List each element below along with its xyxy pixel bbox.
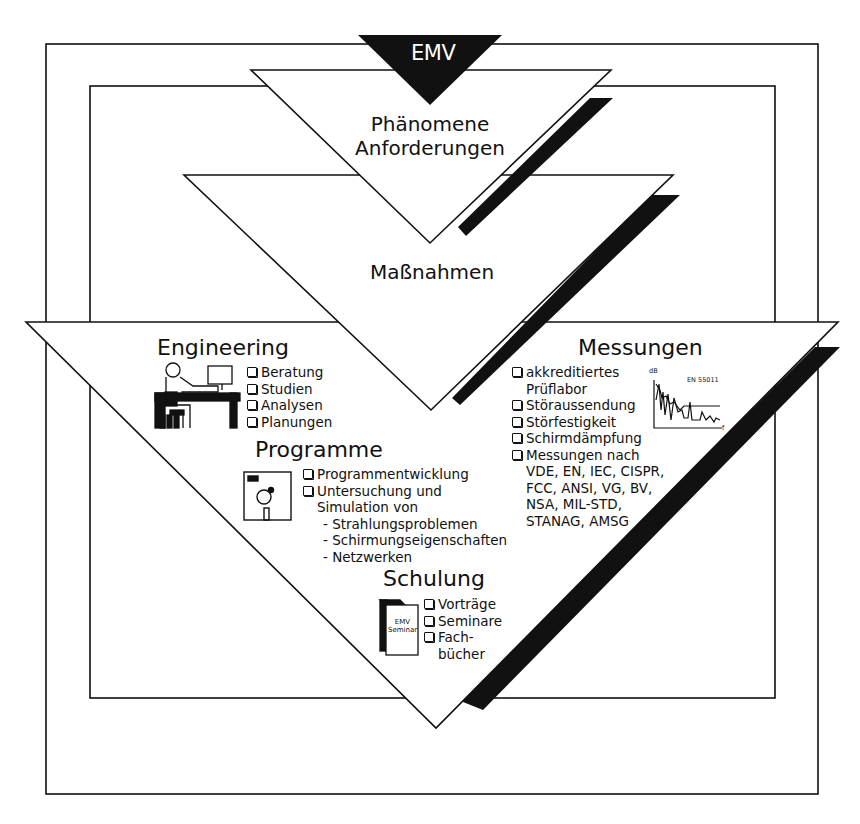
programme-item: Programmentwicklung: [302, 466, 507, 483]
programme-heading: Programme: [255, 437, 383, 462]
level-phaenomene: Phänomene Anforderungen: [347, 112, 513, 160]
programme-subitem: - Netzwerken: [302, 549, 507, 566]
engineering-item: Planungen: [246, 414, 332, 431]
messungen-item-continuation: NSA, MIL-STD,: [511, 496, 664, 513]
schulung-item: Seminare: [423, 613, 502, 630]
level-massnahmen: Maßnahmen: [357, 260, 507, 284]
messungen-item: akkreditiertes: [511, 364, 664, 381]
messungen-item: Messungen nach: [511, 447, 664, 464]
plot-x-label: f: [722, 424, 724, 432]
messungen-item: Störfestigkeit: [511, 414, 664, 431]
messungen-item-continuation: Prüflabor: [511, 381, 664, 398]
schulung-list: Vorträge Seminare Fach- bücher: [423, 596, 502, 662]
messungen-item-continuation: STANAG, AMSG: [511, 513, 664, 530]
programme-subitem: - Schirmungseigenschaften: [302, 532, 507, 549]
book-cover-line-1: EMV: [387, 618, 418, 626]
engineering-item: Beratung: [246, 364, 332, 381]
programme-list: Programmentwicklung Untersuchung und Sim…: [302, 466, 507, 565]
engineering-item: Studien: [246, 381, 332, 398]
engineering-item: Analysen: [246, 397, 332, 414]
schulung-item: Fach-: [423, 629, 502, 646]
schulung-item: Vorträge: [423, 596, 502, 613]
programme-item: Untersuchung und: [302, 483, 507, 500]
engineering-heading: Engineering: [157, 335, 289, 360]
schulung-item-continuation: bücher: [423, 646, 502, 663]
messungen-item-continuation: VDE, EN, IEC, CISPR,: [511, 463, 664, 480]
level-phaenomene-line-1: Phänomene: [347, 112, 513, 136]
level-phaenomene-line-2: Anforderungen: [347, 136, 513, 160]
schulung-heading: Schulung: [383, 566, 485, 591]
messungen-item: Störaussendung: [511, 397, 664, 414]
programme-subitem: - Strahlungsproblemen: [302, 516, 507, 533]
messungen-list: akkreditiertes Prüflabor Störaussendung …: [511, 364, 664, 529]
plot-standard-label: EN 55011: [687, 376, 719, 384]
emv-title: EMV: [411, 41, 455, 65]
messungen-heading: Messungen: [578, 335, 703, 360]
programme-item-continuation: Simulation von: [302, 499, 507, 516]
book-cover-label: EMV Seminar: [387, 618, 418, 634]
book-cover-line-2: Seminar: [387, 626, 418, 634]
engineering-list: Beratung Studien Analysen Planungen: [246, 364, 332, 430]
messungen-item-continuation: FCC, ANSI, VG, BV,: [511, 480, 664, 497]
messungen-item: Schirmdämpfung: [511, 430, 664, 447]
emv-diagram: EMV Phänomene Anforderungen Maßnahmen En…: [0, 0, 860, 824]
